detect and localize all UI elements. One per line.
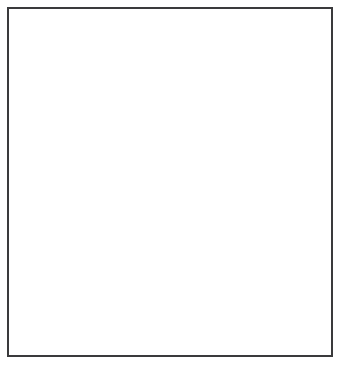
diagram-canvas: Earth Reference Meridian Sun Sidereal Da… <box>0 0 342 366</box>
figure-frame <box>7 7 333 357</box>
